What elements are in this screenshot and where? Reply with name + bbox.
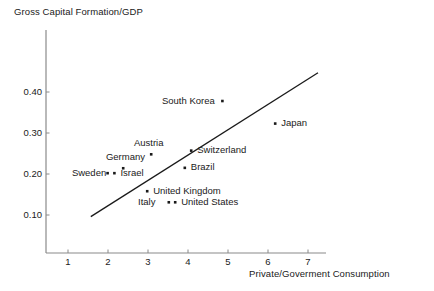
x-tick-label: 5 [221,256,235,267]
x-tick-label: 4 [181,256,195,267]
axes [46,30,326,253]
data-point-marker [174,201,177,204]
data-point-marker [150,153,153,156]
y-tick-label: 0.20 [10,168,42,179]
data-point-marker [106,172,109,175]
x-tick-label: 3 [141,256,155,267]
data-point-label: Brazil [191,161,215,172]
data-point-label: Israel [120,167,143,178]
data-point-label: United Kingdom [153,185,221,196]
data-point-marker [184,167,187,170]
data-point-marker [190,149,193,152]
data-point-marker [274,122,277,125]
data-point-marker [113,172,116,175]
y-tick-label: 0.30 [10,127,42,138]
data-point-marker [168,201,171,204]
data-point-label: United States [181,196,238,207]
x-tick-label: 7 [301,256,315,267]
x-tick-label: 2 [101,256,115,267]
x-tick-label: 6 [261,256,275,267]
x-tick-label: 1 [61,256,75,267]
y-tick-label: 0.40 [10,86,42,97]
data-point-label: Switzerland [197,144,246,155]
data-point-label: South Korea [162,95,215,106]
y-tick-label: 0.10 [10,209,42,220]
scatter-chart: Gross Capital Formation/GDP Private/Gove… [0,0,434,291]
data-point-label: Germany [106,151,145,162]
data-point-marker [221,100,224,103]
data-point-label: Italy [138,196,155,207]
data-point-label: Sweden [72,167,106,178]
data-point-label: Austria [134,137,164,148]
data-point-label: Japan [281,117,307,128]
data-point-marker [146,190,149,193]
